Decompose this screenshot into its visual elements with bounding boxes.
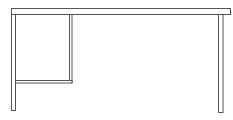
drawer-panel-bottom [16,81,73,84]
desk-drawing [0,0,233,120]
left-leg [12,15,16,111]
tabletop [12,9,231,15]
drawer-panel-side [70,15,73,83]
right-leg [219,15,224,113]
